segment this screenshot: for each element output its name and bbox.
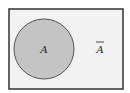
venn-diagram: A A [0, 0, 130, 93]
complement-label: A [95, 44, 103, 55]
set-a-label: A [39, 44, 47, 55]
